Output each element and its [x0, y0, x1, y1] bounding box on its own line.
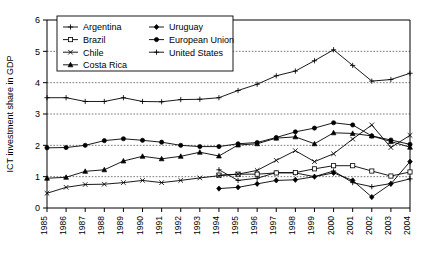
datapoint-united-states-2003	[388, 77, 393, 82]
datapoint-united-states-1994	[216, 95, 221, 100]
datapoint-argentina-2004	[407, 176, 412, 181]
datapoint-european-union-1999	[312, 126, 316, 130]
x-tick-label-1989: 1989	[115, 216, 125, 235]
datapoint-united-states-1986	[64, 95, 69, 100]
legend-label-costa-rica: Costa Rica	[83, 60, 127, 70]
x-tick-label-2002: 2002	[364, 216, 374, 235]
legend-label-united-states: United States	[169, 48, 224, 58]
y-axis-title: ICT investment share in GDP	[5, 56, 15, 173]
datapoint-united-states-1999	[312, 58, 317, 63]
legend-label-chile: Chile	[83, 48, 104, 58]
x-tick-label-1994: 1994	[211, 216, 221, 235]
datapoint-european-union-1996	[255, 140, 259, 144]
datapoint-chile-1997	[274, 158, 279, 163]
legend-marker-european-union	[154, 38, 158, 42]
datapoint-european-union-1998	[293, 130, 297, 134]
datapoint-uruguay-1999	[312, 174, 317, 179]
x-tick-label-2000: 2000	[326, 216, 336, 235]
datapoint-european-union-1993	[198, 144, 202, 148]
datapoint-brazil-1994	[217, 173, 221, 177]
datapoint-argentina-1995	[235, 178, 240, 183]
datapoint-european-union-2004	[408, 142, 412, 146]
datapoint-european-union-2001	[351, 123, 355, 127]
datapoint-united-states-1985	[44, 95, 49, 100]
x-tick-label-1987: 1987	[77, 216, 87, 235]
x-tick-label-1988: 1988	[96, 216, 106, 235]
x-tick-label-1993: 1993	[192, 216, 202, 235]
datapoint-chile-2003	[389, 145, 394, 150]
datapoint-brazil-1997	[274, 171, 278, 175]
x-tick-label-2004: 2004	[402, 216, 412, 235]
x-tick-label-1986: 1986	[58, 216, 68, 235]
x-tick-label-1992: 1992	[173, 216, 183, 235]
y-tick-label-1: 1	[35, 172, 40, 182]
datapoint-uruguay-1995	[236, 185, 241, 190]
datapoint-uruguay-1998	[293, 177, 298, 182]
x-tick-label-1999: 1999	[306, 216, 316, 235]
datapoint-uruguay-1994	[217, 186, 222, 191]
datapoint-brazil-2001	[351, 164, 355, 168]
x-tick-label-1996: 1996	[249, 216, 259, 235]
datapoint-uruguay-1996	[255, 181, 260, 186]
datapoint-brazil-2002	[370, 169, 374, 173]
legend: ArgentinaBrazilChileCosta RicaUruguayEur…	[57, 16, 234, 71]
datapoint-european-union-1986	[64, 145, 68, 149]
datapoint-european-union-2000	[331, 121, 335, 125]
legend-label-european-union: European Union	[169, 35, 234, 45]
datapoint-united-states-1998	[293, 68, 298, 73]
y-tick-label-2: 2	[35, 141, 40, 151]
datapoint-argentina-1994	[216, 167, 221, 172]
x-tick-label-1995: 1995	[230, 216, 240, 235]
datapoint-brazil-2003	[389, 174, 393, 178]
x-tick-label-1998: 1998	[287, 216, 297, 235]
datapoint-european-union-1991	[160, 140, 164, 144]
legend-label-brazil: Brazil	[83, 35, 106, 45]
chart-canvas: 0123456198519861987198819891990199119921…	[0, 0, 425, 260]
legend-label-argentina: Argentina	[83, 22, 122, 32]
datapoint-brazil-2004	[408, 170, 412, 174]
datapoint-chile-2001	[350, 137, 355, 142]
series-european-union	[45, 121, 412, 150]
series-path-european-union	[47, 123, 410, 148]
x-tick-label-1997: 1997	[268, 216, 278, 235]
series-costa-rica	[45, 130, 413, 180]
datapoint-united-states-1990	[140, 99, 145, 104]
datapoint-uruguay-1997	[274, 178, 279, 183]
y-tick-label-6: 6	[35, 15, 40, 25]
legend-marker-brazil	[68, 38, 72, 42]
datapoint-united-states-2004	[407, 71, 412, 76]
x-tick-label-2001: 2001	[345, 216, 355, 235]
y-tick-label-0: 0	[35, 203, 40, 213]
datapoint-chile-1999	[312, 159, 317, 164]
datapoint-european-union-1987	[83, 143, 87, 147]
datapoint-chile-2002	[369, 123, 374, 128]
x-tick-label-2003: 2003	[383, 216, 393, 235]
y-tick-label-3: 3	[35, 109, 40, 119]
datapoint-european-union-1997	[274, 135, 278, 139]
y-tick-label-5: 5	[35, 47, 40, 57]
datapoint-brazil-1998	[293, 170, 297, 174]
datapoint-brazil-1999	[312, 167, 316, 171]
datapoint-united-states-1991	[159, 99, 164, 104]
datapoint-united-states-1989	[121, 95, 126, 100]
datapoint-chile-2000	[331, 151, 336, 156]
datapoint-european-union-1995	[236, 142, 240, 146]
datapoint-european-union-1994	[217, 144, 221, 148]
series-path-costa-rica	[47, 133, 410, 178]
datapoint-brazil-2000	[331, 164, 335, 168]
datapoint-european-union-2003	[389, 138, 393, 142]
datapoint-united-states-1987	[83, 99, 88, 104]
x-tick-label-1990: 1990	[135, 216, 145, 235]
datapoint-european-union-1992	[179, 143, 183, 147]
datapoint-united-states-1992	[178, 97, 183, 102]
ict-investment-line-chart: 0123456198519861987198819891990199119921…	[0, 0, 425, 260]
datapoint-brazil-1996	[255, 172, 259, 176]
datapoint-european-union-2002	[370, 134, 374, 138]
legend-label-uruguay: Uruguay	[169, 22, 204, 32]
datapoint-united-states-1993	[197, 97, 202, 102]
x-tick-label-1991: 1991	[154, 216, 164, 235]
datapoint-european-union-1990	[140, 138, 144, 142]
datapoint-european-union-1988	[102, 139, 106, 143]
datapoint-united-states-1988	[102, 99, 107, 104]
datapoint-costa-rica-1993	[197, 150, 202, 155]
